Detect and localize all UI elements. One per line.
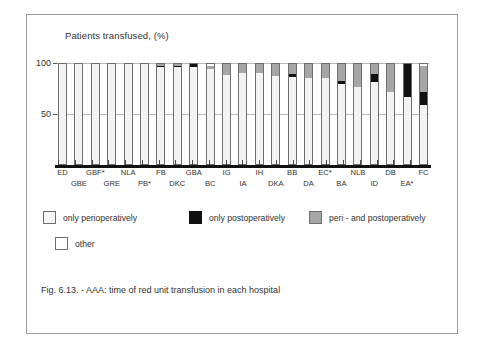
legend: only perioperatively only postoperativel… — [41, 211, 445, 263]
bar-segment-0 — [304, 78, 313, 165]
legend-swatch-only-perioperatively — [43, 211, 56, 224]
bar-segment-0 — [140, 63, 149, 165]
bar-segment-2 — [271, 63, 280, 76]
bar-DKA — [271, 63, 280, 165]
bar-segment-0 — [91, 63, 100, 165]
x-axis-label-GBFstar: GBF* — [86, 168, 105, 177]
x-axis-label-IH: IH — [256, 168, 264, 177]
bar-segment-0 — [156, 67, 165, 165]
x-label-slot: IH — [255, 168, 264, 198]
x-axis-label-GBE: GBE — [71, 179, 87, 188]
bar-segment-2 — [353, 63, 362, 87]
bar-segment-2 — [222, 63, 231, 75]
bar-segment-0 — [370, 82, 379, 165]
bar-DA — [304, 63, 313, 165]
bar-segment-0 — [189, 67, 198, 165]
bar-EAstar — [403, 63, 412, 165]
bar-ED — [58, 63, 67, 165]
plot-area — [57, 63, 429, 165]
x-label-slot: NLA — [124, 168, 133, 198]
x-label-slot: DKA — [271, 168, 280, 198]
x-label-slot: DB — [386, 168, 395, 198]
figure-caption: Fig. 6.13. - AAA: time of red unit trans… — [41, 285, 280, 295]
legend-row-primary: only perioperatively only postoperativel… — [41, 211, 445, 237]
x-axis-label-DA: DA — [303, 179, 314, 188]
bar-segment-2 — [304, 63, 313, 78]
bar-segment-2 — [337, 63, 346, 81]
x-axis-label-FC: FC — [418, 168, 428, 177]
x-axis-label-FB: FB — [156, 168, 166, 177]
chart-title: Patients transfused, (%) — [65, 30, 169, 41]
bar-IH — [255, 63, 264, 165]
x-label-slot: DA — [304, 168, 313, 198]
bar-segment-1 — [419, 92, 428, 105]
x-axis-label-BA: BA — [336, 179, 346, 188]
x-label-slot: EC* — [321, 168, 330, 198]
legend-item-other: other — [55, 237, 95, 250]
x-axis-label-BB: BB — [287, 168, 297, 177]
bar-segment-2 — [370, 63, 379, 74]
bar-GBE — [74, 63, 83, 165]
bar-segment-0 — [337, 84, 346, 165]
legend-item-peri-and-postoperatively: peri - and postoperatively — [309, 211, 426, 224]
legend-label-only-perioperatively: only perioperatively — [63, 213, 137, 223]
x-label-slot: ID — [370, 168, 379, 198]
bar-DKC — [173, 63, 182, 165]
bar-segment-2 — [321, 63, 330, 78]
bar-BA — [337, 63, 346, 165]
bar-segment-2 — [238, 63, 247, 73]
bar-DB — [386, 63, 395, 165]
x-axis-label-BC: BC — [205, 179, 216, 188]
x-axis-label-GRE: GRE — [103, 179, 119, 188]
x-axis-label-DKC: DKC — [169, 179, 185, 188]
bar-BC — [206, 63, 215, 165]
x-axis-label-ED: ED — [57, 168, 68, 177]
bar-segment-0 — [321, 78, 330, 165]
x-axis-label-DB: DB — [385, 168, 396, 177]
bar-IG — [222, 63, 231, 165]
bar-FC — [419, 63, 428, 165]
legend-item-only-postoperatively: only postoperatively — [189, 211, 285, 224]
figure-frame: Patients transfused, (%) 100 50 EDGBEGBF… — [26, 14, 458, 334]
bar-segment-0 — [238, 73, 247, 165]
bar-GBA — [189, 63, 198, 165]
bar-IA — [238, 63, 247, 165]
x-label-slot: GBA — [189, 168, 198, 198]
x-axis-label-PBstar: PB* — [138, 179, 151, 188]
x-label-slot: ED — [58, 168, 67, 198]
bars-container — [57, 63, 429, 165]
x-axis-label-ID: ID — [370, 179, 378, 188]
x-axis-label-IA: IA — [239, 179, 246, 188]
bar-segment-0 — [222, 75, 231, 165]
bar-segment-0 — [74, 63, 83, 165]
bar-segment-0 — [386, 92, 395, 165]
x-label-slot: NLB — [353, 168, 362, 198]
x-axis-label-NLA: NLA — [121, 168, 136, 177]
bar-segment-0 — [107, 63, 116, 165]
x-axis-label-GBA: GBA — [186, 168, 202, 177]
x-label-slot: FB — [156, 168, 165, 198]
x-axis-label-IG: IG — [223, 168, 231, 177]
bar-segment-2 — [288, 63, 297, 74]
bar-NLB — [353, 63, 362, 165]
bar-segment-2 — [386, 63, 395, 92]
bar-segment-0 — [419, 105, 428, 165]
bar-segment-0 — [403, 97, 412, 165]
x-axis-labels: EDGBEGBF*GRENLAPB*FBDKCGBABCIGIAIHDKABBD… — [57, 168, 429, 198]
x-label-slot: FC — [419, 168, 428, 198]
bar-segment-0 — [173, 67, 182, 165]
bar-BB — [288, 63, 297, 165]
x-label-slot: DKC — [173, 168, 182, 198]
bar-segment-0 — [288, 77, 297, 165]
x-label-slot: IA — [238, 168, 247, 198]
bar-segment-1 — [370, 74, 379, 82]
bar-PBstar — [140, 63, 149, 165]
x-label-slot: BB — [288, 168, 297, 198]
bar-segment-0 — [271, 76, 280, 165]
x-label-slot: BC — [206, 168, 215, 198]
legend-label-other: other — [75, 239, 95, 249]
y-axis-tick-label-100: 100 — [27, 58, 51, 68]
bar-ECstar — [321, 63, 330, 165]
x-axis-label-EAstar: EA* — [400, 179, 413, 188]
x-label-slot: IG — [222, 168, 231, 198]
